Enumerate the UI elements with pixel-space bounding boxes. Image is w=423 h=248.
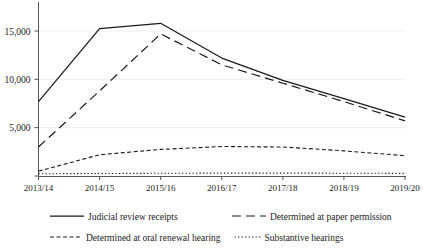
- legend-label: Judicial review receipts: [88, 212, 178, 222]
- legend-label: Substantive hearings: [265, 233, 344, 243]
- legend-label: Determined at oral renewal hearing: [86, 233, 221, 243]
- y-tick-label: 5,000: [9, 123, 31, 133]
- y-axis-labels: 5,00010,00015,000: [4, 27, 30, 134]
- line-chart: 5,00010,00015,000 2013/142014/152015/162…: [0, 0, 423, 248]
- series-line: [39, 173, 406, 174]
- legend-label: Determined at paper permission: [270, 212, 392, 222]
- x-tick-label: 2016/17: [207, 183, 237, 193]
- x-tick-label: 2018/19: [329, 183, 359, 193]
- x-tick-label: 2017/18: [268, 183, 298, 193]
- x-tick-label: 2013/14: [24, 183, 54, 193]
- series-line: [39, 34, 406, 147]
- x-tick-label: 2015/16: [146, 183, 176, 193]
- series-line: [39, 147, 406, 172]
- x-axis-labels: 2013/142014/152015/162016/172017/182018/…: [24, 183, 421, 193]
- gridlines-group: [39, 31, 406, 128]
- y-tick-label: 15,000: [4, 27, 30, 37]
- x-tick-label: 2019/20: [390, 183, 420, 193]
- y-axis-ticks: [35, 31, 39, 176]
- data-series-group: [39, 23, 406, 174]
- x-tick-label: 2014/15: [85, 183, 115, 193]
- chart-container: 5,00010,00015,000 2013/142014/152015/162…: [0, 0, 423, 248]
- y-tick-label: 10,000: [4, 75, 30, 85]
- chart-legend: Judicial review receiptsDetermined at pa…: [50, 212, 392, 243]
